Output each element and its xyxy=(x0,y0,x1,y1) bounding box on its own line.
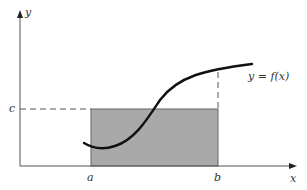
y-axis-label: y xyxy=(24,6,32,19)
y-axis-arrow-icon xyxy=(17,10,23,18)
x-axis-arrow-icon xyxy=(289,163,297,169)
b-label: b xyxy=(214,171,221,184)
c-label: c xyxy=(9,102,15,115)
x-axis-label: x xyxy=(290,172,297,185)
mean-value-diagram: y x c a b y = f(x) xyxy=(0,0,307,190)
curve-label: y = f(x) xyxy=(247,70,289,83)
a-label: a xyxy=(87,171,94,184)
shaded-rectangle xyxy=(91,109,218,166)
